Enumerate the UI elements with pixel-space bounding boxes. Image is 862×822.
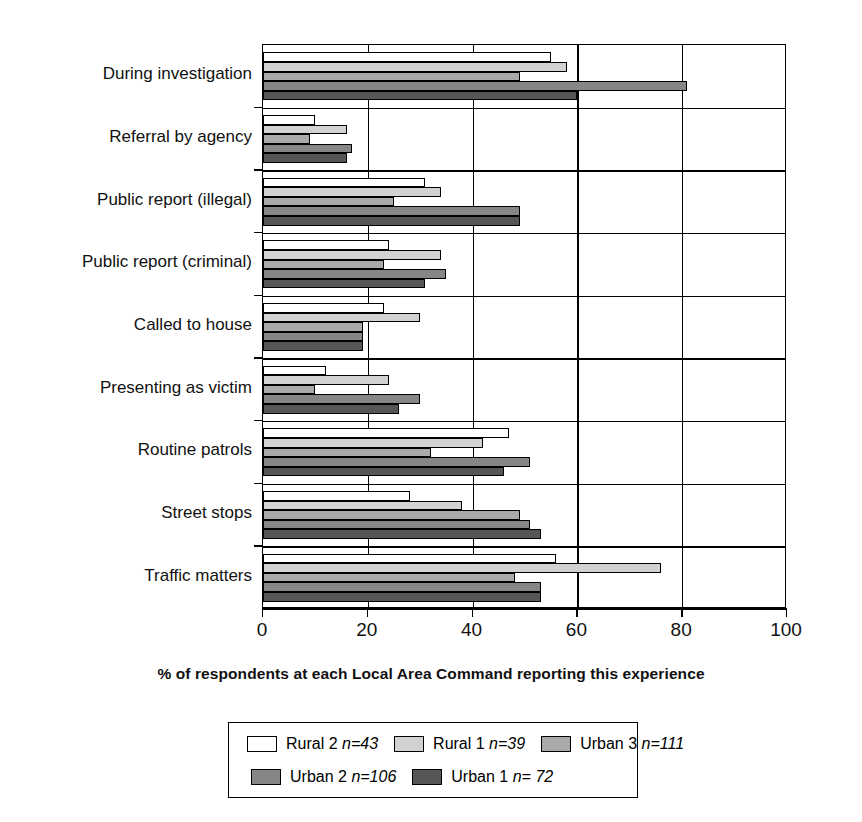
bar-group (263, 45, 785, 108)
category-label: Street stops (0, 503, 252, 523)
bar (263, 366, 326, 376)
bar (263, 428, 509, 438)
bar (263, 178, 425, 188)
category-tick (254, 232, 262, 233)
legend-item[interactable]: Urban 3 n=111 (541, 735, 684, 753)
legend-row: Urban 2 n=106Urban 1 n= 72 (229, 762, 637, 792)
legend-item[interactable]: Rural 2 n=43 (247, 735, 378, 753)
x-tick-label: 20 (356, 619, 377, 641)
bar (263, 260, 384, 270)
bar (263, 187, 441, 197)
category-label: Referral by agency (0, 127, 252, 147)
bar (263, 115, 315, 125)
x-tick-label: 100 (770, 619, 802, 641)
legend-row: Rural 2 n=43Rural 1 n=39Urban 3 n=111 (229, 729, 637, 759)
bar (263, 134, 310, 144)
bar-group (263, 546, 785, 609)
legend-swatch (247, 736, 277, 752)
bar (263, 125, 347, 135)
x-tick-label: 80 (671, 619, 692, 641)
bar-group (263, 108, 785, 171)
bar (263, 313, 420, 323)
category-tick (254, 483, 262, 484)
bar-group (263, 170, 785, 233)
bar (263, 52, 551, 62)
bar (263, 153, 347, 163)
bar (263, 206, 520, 216)
category-label: Routine patrols (0, 440, 252, 460)
bar (263, 375, 389, 385)
bar (263, 573, 515, 583)
x-tick (681, 608, 682, 617)
bar (263, 62, 567, 72)
bar (263, 520, 530, 530)
bar (263, 216, 520, 226)
chart-figure: During investigationReferral by agencyPu… (0, 0, 862, 822)
bar (263, 529, 541, 539)
category-separator (263, 296, 785, 297)
category-tick (254, 545, 262, 546)
bar (263, 91, 577, 101)
plot-area (262, 44, 786, 608)
category-separator (263, 108, 785, 109)
bar (263, 332, 363, 342)
category-separator (263, 170, 785, 171)
bar-group (263, 233, 785, 296)
x-tick (786, 608, 787, 617)
legend-item[interactable]: Urban 2 n=106 (251, 768, 396, 786)
bar (263, 385, 315, 395)
bar-group (263, 484, 785, 547)
category-label: Presenting as victim (0, 378, 252, 398)
bar (263, 501, 462, 511)
bar (263, 510, 520, 520)
bar (263, 341, 363, 351)
category-separator (263, 421, 785, 422)
bar (263, 303, 384, 313)
category-tick (254, 357, 262, 358)
bar (263, 467, 504, 477)
bar (263, 438, 483, 448)
legend-item[interactable]: Urban 1 n= 72 (412, 768, 553, 786)
bar (263, 394, 420, 404)
bar (263, 582, 541, 592)
bar-group (263, 421, 785, 484)
bar (263, 448, 431, 458)
bar (263, 457, 530, 467)
bar (263, 592, 541, 602)
category-label: Public report (criminal) (0, 252, 252, 272)
bar-group (263, 296, 785, 359)
x-axis-line (262, 608, 787, 610)
legend-item[interactable]: Rural 1 n=39 (394, 735, 525, 753)
category-label: Traffic matters (0, 566, 252, 586)
category-separator (263, 484, 785, 485)
category-tick (254, 107, 262, 108)
category-tick (254, 420, 262, 421)
legend-label: Urban 1 n= 72 (451, 768, 553, 786)
x-tick (367, 608, 368, 617)
category-tick (254, 169, 262, 170)
x-tick (262, 608, 263, 617)
bar (263, 279, 425, 289)
legend-swatch (541, 736, 571, 752)
x-tick (576, 608, 577, 617)
bar (263, 144, 352, 154)
bar (263, 269, 446, 279)
legend-label: Rural 2 n=43 (286, 735, 378, 753)
bar (263, 491, 410, 501)
category-separator (263, 358, 785, 359)
bar (263, 72, 520, 82)
legend-label: Urban 3 n=111 (580, 735, 684, 753)
category-separator (263, 233, 785, 234)
legend-swatch (394, 736, 424, 752)
bar (263, 250, 441, 260)
bar (263, 563, 661, 573)
category-label: Called to house (0, 315, 252, 335)
bar (263, 322, 363, 332)
bar (263, 404, 399, 414)
legend: Rural 2 n=43Rural 1 n=39Urban 3 n=111Urb… (228, 722, 638, 798)
legend-label: Rural 1 n=39 (433, 735, 525, 753)
x-tick-label: 40 (461, 619, 482, 641)
legend-swatch (412, 769, 442, 785)
bar (263, 240, 389, 250)
x-tick (472, 608, 473, 617)
